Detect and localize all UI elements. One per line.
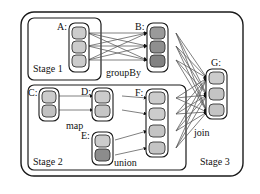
partition-A-1[interactable] <box>72 41 86 53</box>
rdd-label-E: E: <box>81 131 90 141</box>
edges-map <box>58 96 93 110</box>
rdd-group-F[interactable] <box>146 89 168 157</box>
edges-union <box>115 131 147 155</box>
partition-F-2[interactable] <box>149 125 165 137</box>
partition-B-0[interactable] <box>150 27 165 39</box>
operation-label-join: join <box>194 128 210 138</box>
operation-label-union: union <box>114 158 137 168</box>
partition-F-3[interactable] <box>149 142 165 154</box>
partition-G-0[interactable] <box>209 72 224 84</box>
partition-D-1[interactable] <box>95 105 110 117</box>
partition-G-1[interactable] <box>209 88 224 100</box>
partition-C-1[interactable] <box>42 105 56 117</box>
partition-D-0[interactable] <box>95 91 110 103</box>
rdd-label-C: C: <box>28 88 37 98</box>
rdd-group-B[interactable] <box>147 23 168 72</box>
stage-label-stage3: Stage 3 <box>200 157 230 167</box>
diagram-canvas: A: B: C: D: E: F: G: groupBy map union j… <box>0 0 260 194</box>
partition-E-1[interactable] <box>95 149 110 161</box>
edges-d-to-f <box>122 96 147 114</box>
partition-G-2[interactable] <box>209 104 224 116</box>
partition-F-1[interactable] <box>149 108 165 120</box>
partition-A-2[interactable] <box>72 55 86 67</box>
rdd-label-D: D: <box>81 87 91 97</box>
stage-label-stage1: Stage 1 <box>33 64 63 74</box>
rdd-label-G: G: <box>211 58 221 68</box>
stage-label-stage2: Stage 2 <box>33 157 63 167</box>
rdd-group-C[interactable] <box>39 88 59 121</box>
partition-E-0[interactable] <box>95 135 110 147</box>
partition-C-0[interactable] <box>42 91 56 103</box>
edges-groupby <box>88 33 147 60</box>
operation-label-map: map <box>66 121 83 131</box>
partition-F-0[interactable] <box>149 92 165 104</box>
rdd-label-B: B: <box>135 22 144 32</box>
operation-label-groupby: groupBy <box>106 68 141 78</box>
rdd-group-A[interactable] <box>69 23 89 72</box>
rdd-group-E[interactable] <box>92 132 113 165</box>
partition-B-2[interactable] <box>150 55 165 67</box>
partition-A-0[interactable] <box>72 27 86 39</box>
rdd-label-F: F: <box>135 88 143 98</box>
rdd-group-D[interactable] <box>92 88 113 121</box>
rdd-label-A: A: <box>57 22 67 32</box>
partition-B-1[interactable] <box>150 41 165 53</box>
rdd-group-G[interactable] <box>206 69 227 119</box>
